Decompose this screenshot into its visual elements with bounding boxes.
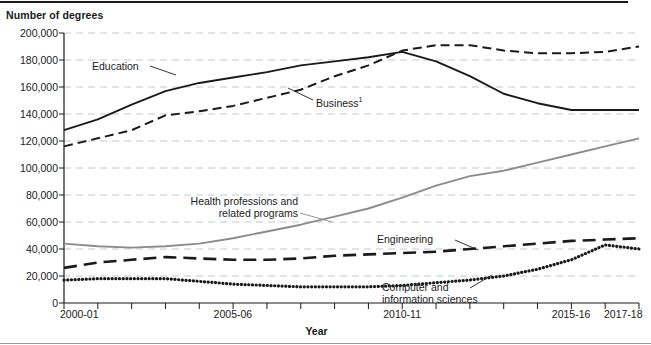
y-tick-label: 160,000 xyxy=(0,81,58,93)
series-annotation-education: Education xyxy=(92,60,139,72)
y-tick-label: 80,000 xyxy=(0,189,58,201)
annotation-text: Health professions and xyxy=(186,195,298,207)
annotation-text-line2: information sciences xyxy=(382,293,478,305)
y-tick-label: 60,000 xyxy=(0,216,58,228)
series-annotation-health-professions: Health professions and related programs xyxy=(186,195,298,219)
annotation-text: Computer and xyxy=(382,281,478,293)
series-paths-group xyxy=(64,45,639,287)
y-tick-label: 180,000 xyxy=(0,54,58,66)
x-tick-label: 2015-16 xyxy=(552,308,591,320)
y-tick-label: 20,000 xyxy=(0,270,58,282)
x-tick-label: 2000-01 xyxy=(60,308,99,320)
bottom-divider xyxy=(0,343,651,344)
annotation-text: Education xyxy=(92,60,139,72)
series-line-0 xyxy=(64,52,639,130)
annotation-superscript: 1 xyxy=(359,96,363,103)
annotation-text-line2: related programs xyxy=(186,207,298,219)
series-line-3 xyxy=(64,238,639,268)
series-annotation-computer-sciences: Computer and information sciences xyxy=(382,281,478,305)
y-tick-label: 140,000 xyxy=(0,108,58,120)
annotation-text: Engineering xyxy=(377,233,433,245)
y-tick-label: 120,000 xyxy=(0,135,58,147)
y-tick-label: 40,000 xyxy=(0,243,58,255)
y-tick-label: 100,000 xyxy=(0,162,58,174)
series-line-2 xyxy=(64,138,639,247)
y-tick-label: 0 xyxy=(0,297,58,309)
x-axis-title: Year xyxy=(0,325,651,337)
y-ticks-group xyxy=(59,33,64,303)
annotation-text: Business xyxy=(316,97,359,109)
x-tick-label: 2017-18 xyxy=(604,308,643,320)
gridlines-group xyxy=(64,33,639,276)
degrees-line-chart: Number of degrees 200,000180,000160,0001… xyxy=(0,0,651,345)
series-annotation-engineering: Engineering xyxy=(377,233,433,245)
y-tick-label: 200,000 xyxy=(0,27,58,39)
x-tick-label: 2005-06 xyxy=(214,308,253,320)
series-annotation-business: Business1 xyxy=(316,94,363,109)
chart-canvas xyxy=(0,0,651,345)
series-line-4 xyxy=(64,245,639,287)
x-tick-label: 2010-11 xyxy=(383,308,421,320)
